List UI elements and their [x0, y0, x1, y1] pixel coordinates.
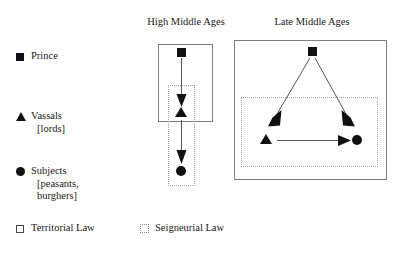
legend-label-vassals-main: Vassals [31, 110, 62, 121]
legend-label-territorial-law: Territorial Law [30, 222, 95, 235]
filled-triangle-icon [16, 110, 30, 123]
legend-item-vassals: Vassals [lords] [16, 110, 65, 135]
figure-canvas: Prince Vassals [lords] Subjects [peasant… [0, 0, 401, 260]
panel-title-late-middle-ages: Late Middle Ages [272, 16, 352, 27]
legend-item-prince: Prince [16, 50, 58, 63]
node-prince-late [308, 47, 317, 56]
legend-label-vassals-sub: [lords] [31, 123, 65, 136]
legend-item-territorial-law: Territorial Law [16, 222, 95, 235]
filled-circle-icon [16, 165, 30, 178]
seigneurial-law-box-late [241, 97, 378, 167]
legend-label-subjects-sub2: burghers] [31, 190, 79, 203]
legend-label-subjects: Subjects [peasants, burghers] [30, 165, 79, 203]
dotted-square-icon [140, 222, 154, 235]
filled-square-icon [16, 50, 30, 63]
legend-label-seigneurial-law: Seigneurial Law [154, 222, 224, 235]
outline-square-icon [16, 222, 30, 235]
legend-item-seigneurial-law: Seigneurial Law [140, 222, 224, 235]
node-subject-late [352, 135, 362, 145]
node-vassal-late [260, 134, 272, 144]
legend-label-subjects-sub1: [peasants, [31, 178, 79, 191]
legend-label-vassals: Vassals [lords] [30, 110, 65, 135]
node-vassal-high [175, 107, 187, 117]
legend-label-subjects-main: Subjects [31, 165, 67, 176]
legend-label-prince: Prince [30, 50, 58, 63]
panel-title-high-middle-ages: High Middle Ages [146, 16, 226, 27]
node-subject-high [176, 166, 186, 176]
node-prince-high [177, 48, 186, 57]
legend-item-subjects: Subjects [peasants, burghers] [16, 165, 79, 203]
